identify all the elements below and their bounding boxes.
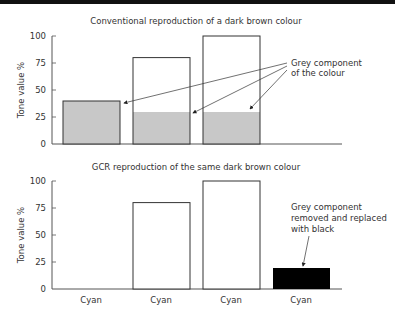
- svg-text:of the colour: of the colour: [291, 68, 345, 78]
- top-bar-2-grey: [133, 112, 190, 144]
- arrow-icon: [250, 70, 287, 109]
- svg-text:100: 100: [30, 176, 46, 186]
- svg-text:Cyan: Cyan: [80, 295, 102, 305]
- svg-text:100: 100: [30, 31, 46, 41]
- top-bar-3-grey: [203, 112, 260, 144]
- svg-text:with black: with black: [291, 224, 334, 234]
- svg-text:Cyan: Cyan: [150, 295, 172, 305]
- bottom-bar-2: [133, 203, 190, 289]
- arrow-icon: [193, 66, 287, 113]
- svg-text:75: 75: [35, 58, 46, 68]
- arrow-icon: [124, 63, 287, 103]
- svg-text:50: 50: [35, 230, 46, 240]
- top-annotation: Grey component of the colour: [124, 58, 363, 113]
- svg-text:0: 0: [41, 139, 46, 149]
- svg-text:25: 25: [35, 112, 46, 122]
- bottom-bar-4-black: [273, 268, 330, 289]
- svg-text:25: 25: [35, 257, 46, 267]
- arrow-icon: [303, 236, 309, 266]
- svg-text:0: 0: [41, 284, 46, 294]
- top-y-axis-label: Tone value %: [16, 62, 26, 119]
- svg-text:Cyan: Cyan: [220, 295, 242, 305]
- bottom-x-labels: Cyan Cyan Cyan Cyan: [80, 295, 312, 305]
- chart-figure: Conventional reproduction of a dark brow…: [0, 0, 395, 322]
- svg-text:removed and replaced: removed and replaced: [291, 213, 387, 223]
- svg-text:Grey component: Grey component: [291, 202, 363, 212]
- svg-text:Cyan: Cyan: [290, 295, 312, 305]
- bottom-annotation: Grey component removed and replaced with…: [291, 202, 387, 266]
- bottom-y-axis-label: Tone value %: [16, 207, 26, 264]
- svg-text:75: 75: [35, 203, 46, 213]
- top-chart-title: Conventional reproduction of a dark brow…: [90, 16, 302, 26]
- svg-text:50: 50: [35, 85, 46, 95]
- bottom-chart-title: GCR reproduction of the same dark brown …: [92, 162, 301, 172]
- svg-text:Grey component: Grey component: [291, 58, 363, 68]
- bottom-bar-3: [203, 181, 260, 289]
- top-bar-1: [63, 101, 120, 144]
